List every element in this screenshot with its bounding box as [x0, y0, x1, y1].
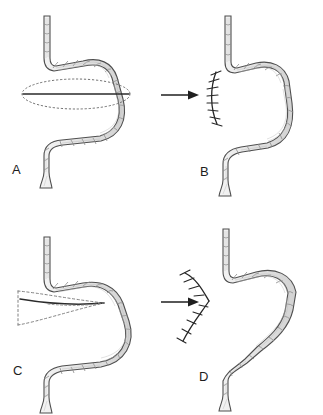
panel-label-c: C	[13, 364, 23, 377]
figure-canvas: A	[0, 0, 323, 415]
colon-outline-d	[219, 229, 296, 411]
colon-outline-a	[40, 16, 125, 188]
bowel-texture-a	[44, 18, 121, 186]
arrow-c-d	[161, 298, 199, 307]
haustra-b	[223, 24, 293, 180]
panel-label-d: D	[199, 370, 209, 383]
arrow-a-b	[161, 91, 199, 100]
bowel-texture-d	[223, 231, 289, 409]
suture-line-b	[207, 71, 222, 126]
panel-c: C	[0, 207, 161, 414]
haustra-a	[44, 24, 124, 170]
panel-label-a: A	[12, 163, 21, 176]
bowel-texture-b	[223, 18, 289, 194]
incision-marking-c	[18, 291, 104, 325]
colon-outline-b	[219, 16, 293, 196]
panel-label-b: B	[200, 165, 209, 178]
colon-outline-c	[40, 237, 131, 413]
incision-marking-a	[22, 79, 130, 109]
suture-line-d	[177, 270, 209, 343]
panel-b: B	[161, 0, 322, 207]
bowel-texture-c	[44, 239, 129, 411]
panel-d: D	[161, 207, 322, 414]
haustra-c	[44, 245, 131, 397]
panel-a: A	[0, 0, 161, 207]
